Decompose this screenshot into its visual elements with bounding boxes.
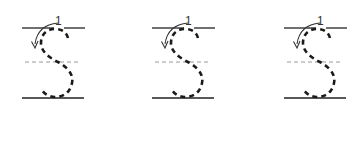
tracing-letter-s: 1 [150, 0, 220, 110]
dashed-letter-s [171, 29, 202, 97]
stroke-order-number: 1 [317, 15, 324, 27]
dashed-letter-s [303, 29, 334, 97]
stroke-order-number: 1 [55, 15, 62, 27]
tracing-letter-s: 1 [20, 0, 90, 110]
stroke-order-number: 1 [185, 15, 192, 27]
tracing-letter-s: 1 [282, 0, 352, 110]
dashed-letter-s [41, 29, 72, 97]
